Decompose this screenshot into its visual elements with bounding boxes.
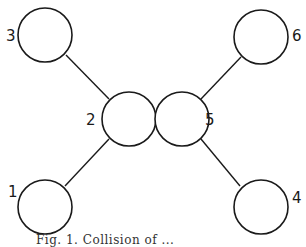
node-label-6: 6 [292, 27, 302, 45]
node-6 [234, 10, 288, 64]
node-5 [155, 92, 209, 146]
edge-3-2 [66, 55, 109, 99]
node-label-3: 3 [6, 27, 16, 45]
nodes-group [18, 8, 288, 234]
node-2 [102, 92, 156, 146]
node-1 [18, 180, 72, 234]
edge-4-5 [201, 139, 240, 186]
node-label-4: 4 [292, 189, 302, 207]
node-label-5: 5 [205, 111, 215, 129]
node-3 [18, 8, 72, 62]
node-label-2: 2 [86, 111, 96, 129]
node-4 [234, 180, 288, 234]
node-label-1: 1 [8, 183, 18, 201]
edge-1-2 [65, 139, 109, 186]
figure-caption: Fig. 1. Collision of ... [36, 233, 174, 247]
edge-6-5 [201, 57, 241, 99]
